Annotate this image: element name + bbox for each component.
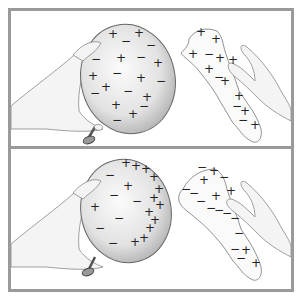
positive-charge-symbol: + <box>136 71 146 85</box>
negative-charge-symbol: − <box>197 160 207 174</box>
negative-charge-symbol: − <box>146 38 156 52</box>
positive-charge-symbol: + <box>131 159 141 173</box>
positive-charge-symbol: + <box>251 256 261 270</box>
negative-charge-symbol: − <box>123 84 133 98</box>
balloon-and-cloth-illustration: +−+−−+−++−+−+−−++−+−+++−+++−++−+−+ <box>11 11 291 146</box>
positive-charge-symbol: + <box>130 235 140 249</box>
negative-charge-symbol: − <box>219 170 229 184</box>
negative-charge-symbol: − <box>238 113 248 127</box>
positive-charge-symbol: + <box>204 62 214 76</box>
positive-charge-symbol: + <box>121 156 131 170</box>
positive-charge-symbol: + <box>101 80 111 94</box>
positive-charge-symbol: + <box>199 173 209 187</box>
negative-charge-symbol: − <box>156 74 166 88</box>
negative-charge-symbol: − <box>204 47 214 61</box>
negative-charge-symbol: − <box>139 99 149 113</box>
positive-charge-symbol: + <box>155 198 165 212</box>
panel-after-rubbing: ++++−+++−−++++−−++−+−++−++−−−−−−−−+−−+ <box>11 149 291 289</box>
positive-charge-symbol: + <box>188 47 198 61</box>
negative-charge-symbol: − <box>132 194 142 208</box>
positive-charge-symbol: + <box>226 184 236 198</box>
negative-charge-symbol: − <box>108 236 118 250</box>
positive-charge-symbol: + <box>196 25 206 39</box>
balloon-and-cloth-illustration: ++++−+++−−++++−−++−+−++−++−−−−−−−−+−−+ <box>11 149 291 289</box>
positive-charge-symbol: + <box>108 27 118 41</box>
positive-charge-symbol: + <box>139 231 149 245</box>
positive-charge-symbol: + <box>209 164 219 178</box>
positive-charge-symbol: + <box>250 118 260 132</box>
negative-charge-symbol: − <box>136 50 146 64</box>
negative-charge-symbol: − <box>112 66 122 80</box>
positive-charge-symbol: + <box>123 179 133 193</box>
negative-charge-symbol: − <box>114 211 124 225</box>
positive-charge-symbol: + <box>111 98 121 112</box>
negative-charge-symbol: − <box>230 211 240 225</box>
positive-charge-symbol: + <box>116 51 126 65</box>
negative-charge-symbol: − <box>112 113 122 127</box>
negative-charge-symbol: − <box>109 188 119 202</box>
negative-charge-symbol: − <box>196 194 206 208</box>
positive-charge-symbol: + <box>90 200 100 214</box>
positive-charge-symbol: + <box>88 69 98 83</box>
positive-charge-symbol: + <box>220 74 230 88</box>
negative-charge-symbol: − <box>236 251 246 265</box>
positive-charge-symbol: + <box>228 53 238 67</box>
panel-before-rubbing: +−+−−+−++−+−+−−++−+−+++−+++−++−+−+ <box>11 11 291 146</box>
negative-charge-symbol: − <box>90 86 100 100</box>
positive-charge-symbol: + <box>153 56 163 70</box>
negative-charge-symbol: − <box>105 168 115 182</box>
negative-charge-symbol: − <box>234 226 244 240</box>
positive-charge-symbol: + <box>215 51 225 65</box>
positive-charge-symbol: + <box>211 32 221 46</box>
negative-charge-symbol: − <box>91 52 101 66</box>
negative-charge-symbol: − <box>121 34 131 48</box>
positive-charge-symbol: + <box>134 26 144 40</box>
positive-charge-symbol: + <box>128 107 138 121</box>
negative-charge-symbol: − <box>95 221 105 235</box>
